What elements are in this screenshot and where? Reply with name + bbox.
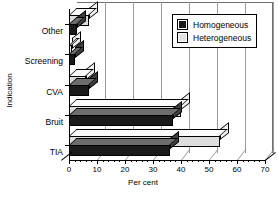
legend-item-heterogeneous: Heterogeneous <box>177 31 251 44</box>
y-category-tick <box>65 115 69 116</box>
y-category-label-bruit: Bruit <box>19 117 63 127</box>
x-tick-minor <box>231 160 232 162</box>
x-tick-label: 50 <box>199 165 219 174</box>
x-tick-label: 70 <box>255 165 275 174</box>
y-category-label-other: Other <box>19 26 63 36</box>
x-tick-label: 10 <box>87 165 107 174</box>
x-tick-minor <box>80 160 81 162</box>
x-tick-label: 20 <box>115 165 135 174</box>
x-tick-minor <box>248 160 249 162</box>
x-tick-minor <box>187 160 188 162</box>
chart-legend: Homogeneous Heterogeneous <box>172 14 257 48</box>
legend-label-homogeneous: Homogeneous <box>193 20 248 30</box>
x-tick-minor <box>91 160 92 162</box>
y-category-tick <box>65 54 69 55</box>
x-tick-minor <box>170 160 171 162</box>
x-tick-major <box>237 160 238 164</box>
x-tick-minor <box>164 160 165 162</box>
x-tick-label: 40 <box>171 165 191 174</box>
x-tick-minor <box>220 160 221 162</box>
x-tick-major <box>97 160 98 164</box>
x-tick-minor <box>108 160 109 162</box>
y-category-label-screening: Screening <box>19 56 63 66</box>
x-tick-minor <box>131 160 132 162</box>
legend-swatch-homogeneous <box>177 19 188 30</box>
bar-front-face <box>69 115 173 126</box>
x-tick-major <box>153 160 154 164</box>
bar-top-face <box>69 99 189 106</box>
axis-depth-edge-right <box>265 153 276 162</box>
x-tick-minor <box>75 160 76 162</box>
bar-top-face <box>69 129 228 136</box>
x-tick-minor <box>86 160 87 162</box>
x-tick-label: 60 <box>227 165 247 174</box>
bar-top-face <box>69 108 180 115</box>
x-tick-minor <box>136 160 137 162</box>
x-tick-minor <box>175 160 176 162</box>
x-tick-minor <box>243 160 244 162</box>
gridline-depth <box>209 149 219 160</box>
x-tick-minor <box>192 160 193 162</box>
bar-top-face <box>69 138 178 145</box>
bar-front-face <box>69 145 170 156</box>
x-tick-minor <box>203 160 204 162</box>
gridline <box>273 2 274 153</box>
x-tick-minor <box>159 160 160 162</box>
y-axis-line <box>69 9 70 160</box>
legend-item-homogeneous: Homogeneous <box>177 18 251 31</box>
x-axis-title: Per cent <box>108 178 178 187</box>
bar-front-face <box>69 85 89 96</box>
x-tick-label: 30 <box>143 165 163 174</box>
y-category-label-cva: CVA <box>19 87 63 97</box>
bar-homogeneous-bruit <box>69 115 173 126</box>
x-tick-minor <box>114 160 115 162</box>
y-category-tick <box>65 24 69 25</box>
x-tick-minor <box>198 160 199 162</box>
gridline-depth <box>237 149 247 160</box>
plot-back-top-edge <box>77 2 273 3</box>
x-tick-minor <box>147 160 148 162</box>
x-tick-minor <box>226 160 227 162</box>
x-tick-minor <box>259 160 260 162</box>
x-tick-major <box>209 160 210 164</box>
bar-homogeneous-tia <box>69 145 170 156</box>
x-tick-major <box>181 160 182 164</box>
x-tick-major <box>69 160 70 164</box>
bar-chart: Indication Per cent 010203040506070 Othe… <box>0 0 278 198</box>
x-tick-minor <box>254 160 255 162</box>
y-category-label-tia: TIA <box>19 147 63 157</box>
y-category-tick <box>65 85 69 86</box>
bar-homogeneous-cva <box>69 85 89 96</box>
x-tick-label: 0 <box>59 165 79 174</box>
x-axis-line <box>69 160 265 161</box>
x-tick-minor <box>103 160 104 162</box>
legend-label-heterogeneous: Heterogeneous <box>193 33 251 43</box>
x-tick-minor <box>215 160 216 162</box>
x-tick-minor <box>119 160 120 162</box>
x-tick-major <box>265 160 266 164</box>
y-axis-title: Indication <box>5 61 14 121</box>
gridline-depth <box>181 149 191 160</box>
legend-swatch-heterogeneous <box>177 32 188 43</box>
y-category-tick <box>65 145 69 146</box>
x-tick-minor <box>142 160 143 162</box>
x-tick-major <box>125 160 126 164</box>
